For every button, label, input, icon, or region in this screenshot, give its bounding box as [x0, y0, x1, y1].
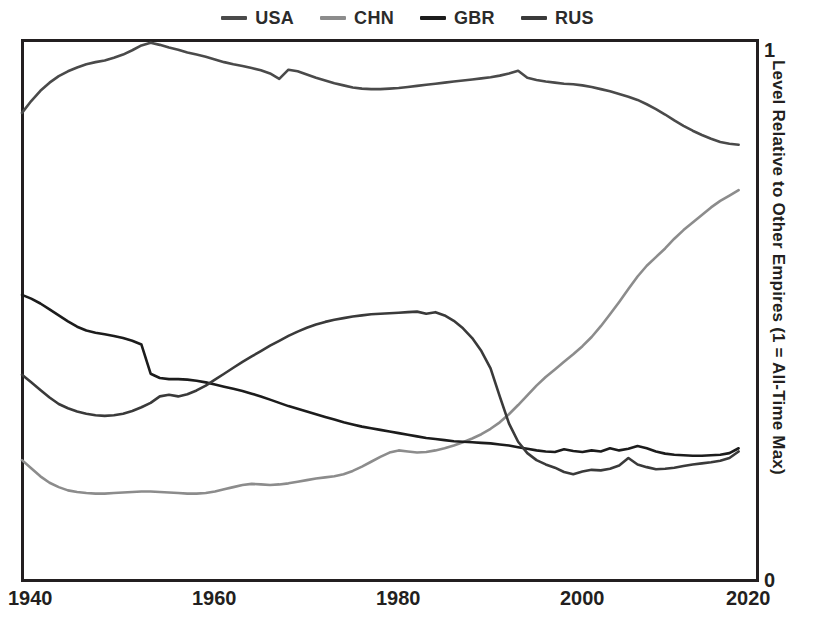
xtick-2020: 2020 [726, 588, 771, 608]
chart-figure: USA CHN GBR RUS 1940 1960 1980 2000 2020… [0, 0, 815, 624]
plot-area: 1940 1960 1980 2000 2020 1 0 Level Relat… [0, 0, 815, 624]
xtick-1940: 1940 [8, 588, 53, 608]
xtick-1960: 1960 [192, 588, 237, 608]
ytick-top-1: 1 [764, 40, 775, 60]
ytick-bottom-0: 0 [764, 570, 775, 590]
y-axis-label: Level Relative to Other Empires (1 = All… [762, 60, 788, 560]
plot-svg [0, 0, 815, 624]
xtick-2000: 2000 [560, 588, 605, 608]
plot-frame [23, 41, 758, 581]
xtick-1980: 1980 [376, 588, 421, 608]
